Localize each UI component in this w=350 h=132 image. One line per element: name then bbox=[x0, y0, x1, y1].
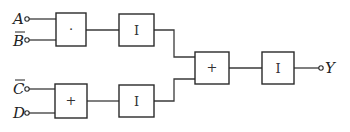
wire-inv2-or2 bbox=[154, 79, 195, 101]
or-symbol: + bbox=[66, 93, 77, 108]
label-y: Y bbox=[325, 59, 337, 77]
invert-symbol: I bbox=[134, 94, 139, 109]
block-or1: + bbox=[55, 84, 87, 118]
terminal-y bbox=[319, 66, 323, 70]
label-a: A bbox=[11, 10, 24, 28]
label-d: D bbox=[12, 104, 25, 122]
wire-inv1-or2 bbox=[154, 30, 195, 57]
terminal-bbar bbox=[25, 38, 29, 42]
or-symbol: + bbox=[207, 60, 218, 75]
label-bbar: B bbox=[12, 32, 24, 50]
terminal-a bbox=[25, 17, 29, 21]
logic-diagram: A B C D · I + I + I Y bbox=[0, 0, 350, 132]
block-inv1: I bbox=[119, 14, 154, 46]
and-symbol: · bbox=[69, 22, 73, 37]
label-cbar: C bbox=[13, 80, 25, 98]
terminal-cbar bbox=[25, 87, 29, 91]
invert-symbol: I bbox=[275, 61, 280, 76]
block-or2: + bbox=[195, 52, 229, 84]
block-inv3: I bbox=[262, 52, 294, 84]
terminal-d bbox=[25, 111, 29, 115]
block-and1: · bbox=[56, 13, 86, 46]
invert-symbol: I bbox=[134, 23, 139, 38]
block-inv2: I bbox=[119, 85, 154, 117]
